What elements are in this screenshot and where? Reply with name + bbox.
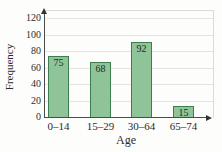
gridline <box>44 68 213 69</box>
gridline <box>44 101 213 102</box>
gridline <box>44 35 213 36</box>
plot-area: 75689215 <box>44 10 214 118</box>
gridline <box>44 84 213 85</box>
gridline <box>44 51 213 52</box>
bar-value-label: 75 <box>49 57 68 69</box>
bar-15–29: 68 <box>90 62 111 118</box>
y-tick-label: 120 <box>9 12 41 24</box>
y-tick-label: 80 <box>9 45 41 57</box>
gridline <box>44 18 213 19</box>
y-tick-label: 20 <box>9 95 41 107</box>
bar-chart-figure: Frequency 75689215 020406080100120 0–141… <box>0 0 222 152</box>
y-tick-label: 100 <box>9 29 41 41</box>
x-axis-line <box>44 117 207 118</box>
x-axis-label: Age <box>96 133 156 147</box>
x-tick-label: 65–74 <box>154 120 214 132</box>
bar-0–14: 75 <box>48 56 69 118</box>
y-axis-arrow-icon <box>41 8 47 14</box>
y-tick-label: 60 <box>9 62 41 74</box>
bar-value-label: 68 <box>91 63 110 75</box>
bar-30–64: 92 <box>131 42 152 118</box>
y-tick-label: 40 <box>9 78 41 90</box>
bar-value-label: 92 <box>132 43 151 55</box>
y-axis-line <box>44 13 45 117</box>
